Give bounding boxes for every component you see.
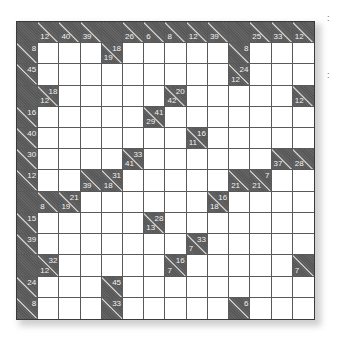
entry-cell[interactable] xyxy=(38,43,59,64)
entry-cell[interactable] xyxy=(123,298,144,319)
entry-cell[interactable] xyxy=(272,277,293,298)
entry-cell[interactable] xyxy=(59,43,80,64)
entry-cell[interactable] xyxy=(187,298,208,319)
entry-cell[interactable] xyxy=(38,234,59,255)
entry-cell[interactable] xyxy=(123,234,144,255)
entry-cell[interactable] xyxy=(229,213,250,234)
entry-cell[interactable] xyxy=(293,192,314,213)
entry-cell[interactable] xyxy=(293,170,314,191)
entry-cell[interactable] xyxy=(272,86,293,107)
entry-cell[interactable] xyxy=(81,43,102,64)
entry-cell[interactable] xyxy=(81,298,102,319)
entry-cell[interactable] xyxy=(81,107,102,128)
entry-cell[interactable] xyxy=(165,192,186,213)
entry-cell[interactable] xyxy=(123,64,144,85)
entry-cell[interactable] xyxy=(144,170,165,191)
entry-cell[interactable] xyxy=(123,107,144,128)
entry-cell[interactable] xyxy=(272,255,293,276)
entry-cell[interactable] xyxy=(229,86,250,107)
entry-cell[interactable] xyxy=(250,64,271,85)
entry-cell[interactable] xyxy=(272,107,293,128)
entry-cell[interactable] xyxy=(81,234,102,255)
entry-cell[interactable] xyxy=(144,234,165,255)
entry-cell[interactable] xyxy=(187,86,208,107)
entry-cell[interactable] xyxy=(81,86,102,107)
entry-cell[interactable] xyxy=(165,277,186,298)
entry-cell[interactable] xyxy=(208,255,229,276)
entry-cell[interactable] xyxy=(123,43,144,64)
entry-cell[interactable] xyxy=(187,170,208,191)
entry-cell[interactable] xyxy=(272,192,293,213)
entry-cell[interactable] xyxy=(59,149,80,170)
entry-cell[interactable] xyxy=(250,128,271,149)
entry-cell[interactable] xyxy=(229,192,250,213)
entry-cell[interactable] xyxy=(208,128,229,149)
entry-cell[interactable] xyxy=(187,107,208,128)
entry-cell[interactable] xyxy=(102,149,123,170)
entry-cell[interactable] xyxy=(102,86,123,107)
entry-cell[interactable] xyxy=(144,149,165,170)
entry-cell[interactable] xyxy=(187,277,208,298)
entry-cell[interactable] xyxy=(208,213,229,234)
entry-cell[interactable] xyxy=(293,277,314,298)
entry-cell[interactable] xyxy=(123,170,144,191)
entry-cell[interactable] xyxy=(102,64,123,85)
entry-cell[interactable] xyxy=(81,255,102,276)
entry-cell[interactable] xyxy=(250,192,271,213)
entry-cell[interactable] xyxy=(59,213,80,234)
entry-cell[interactable] xyxy=(165,234,186,255)
entry-cell[interactable] xyxy=(38,149,59,170)
entry-cell[interactable] xyxy=(208,170,229,191)
entry-cell[interactable] xyxy=(272,298,293,319)
entry-cell[interactable] xyxy=(144,128,165,149)
entry-cell[interactable] xyxy=(123,255,144,276)
entry-cell[interactable] xyxy=(293,298,314,319)
entry-cell[interactable] xyxy=(250,255,271,276)
entry-cell[interactable] xyxy=(165,298,186,319)
entry-cell[interactable] xyxy=(81,149,102,170)
entry-cell[interactable] xyxy=(208,86,229,107)
entry-cell[interactable] xyxy=(272,128,293,149)
entry-cell[interactable] xyxy=(250,149,271,170)
entry-cell[interactable] xyxy=(38,277,59,298)
entry-cell[interactable] xyxy=(123,86,144,107)
entry-cell[interactable] xyxy=(293,43,314,64)
entry-cell[interactable] xyxy=(59,107,80,128)
entry-cell[interactable] xyxy=(38,298,59,319)
entry-cell[interactable] xyxy=(250,298,271,319)
entry-cell[interactable] xyxy=(59,170,80,191)
entry-cell[interactable] xyxy=(272,234,293,255)
entry-cell[interactable] xyxy=(229,255,250,276)
entry-cell[interactable] xyxy=(38,128,59,149)
entry-cell[interactable] xyxy=(208,107,229,128)
entry-cell[interactable] xyxy=(123,192,144,213)
entry-cell[interactable] xyxy=(187,213,208,234)
entry-cell[interactable] xyxy=(293,128,314,149)
entry-cell[interactable] xyxy=(229,277,250,298)
entry-cell[interactable] xyxy=(250,107,271,128)
entry-cell[interactable] xyxy=(81,128,102,149)
entry-cell[interactable] xyxy=(208,298,229,319)
entry-cell[interactable] xyxy=(293,64,314,85)
entry-cell[interactable] xyxy=(102,107,123,128)
entry-cell[interactable] xyxy=(144,277,165,298)
entry-cell[interactable] xyxy=(272,170,293,191)
entry-cell[interactable] xyxy=(59,298,80,319)
entry-cell[interactable] xyxy=(165,170,186,191)
entry-cell[interactable] xyxy=(59,128,80,149)
entry-cell[interactable] xyxy=(208,43,229,64)
entry-cell[interactable] xyxy=(81,64,102,85)
entry-cell[interactable] xyxy=(272,43,293,64)
entry-cell[interactable] xyxy=(187,149,208,170)
entry-cell[interactable] xyxy=(38,64,59,85)
entry-cell[interactable] xyxy=(250,86,271,107)
entry-cell[interactable] xyxy=(229,149,250,170)
entry-cell[interactable] xyxy=(102,234,123,255)
entry-cell[interactable] xyxy=(38,213,59,234)
entry-cell[interactable] xyxy=(144,64,165,85)
entry-cell[interactable] xyxy=(165,213,186,234)
entry-cell[interactable] xyxy=(250,43,271,64)
entry-cell[interactable] xyxy=(208,149,229,170)
entry-cell[interactable] xyxy=(165,149,186,170)
entry-cell[interactable] xyxy=(123,277,144,298)
